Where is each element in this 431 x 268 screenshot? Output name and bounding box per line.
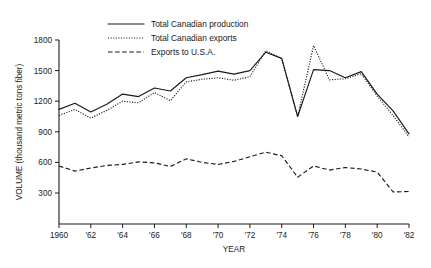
series-group <box>59 46 409 192</box>
y-tick-label: 900 <box>38 128 52 137</box>
x-axis-title: YEAR <box>223 245 245 254</box>
y-tick-label: 600 <box>38 158 52 167</box>
y-axis-title: VOLUME (thousand metric tons fiber) <box>15 63 24 200</box>
y-tick-label: 1200 <box>34 97 53 106</box>
y-axis-ticks <box>55 40 59 193</box>
x-axis-tick-labels: 1960'62'64'66'68'70'72'74'76'78'80'82 <box>50 231 415 240</box>
series-solid <box>59 52 409 134</box>
x-tick-label: '66 <box>149 231 160 240</box>
x-tick-label: '62 <box>85 231 96 240</box>
x-tick-label: '72 <box>245 231 256 240</box>
x-tick-label: '76 <box>308 231 319 240</box>
legend-label: Total Canadian exports <box>151 33 237 43</box>
x-tick-label: '82 <box>404 231 415 240</box>
x-tick-label: '80 <box>372 231 383 240</box>
chart-container: 300600900120015001800 1960'62'64'66'68'7… <box>0 0 431 268</box>
y-tick-label: 1800 <box>34 36 53 45</box>
x-tick-label: '78 <box>340 231 351 240</box>
x-tick-label: '70 <box>213 231 224 240</box>
series-dotted <box>59 46 409 137</box>
series-dashed <box>59 152 409 192</box>
legend-label: Total Canadian production <box>151 19 249 29</box>
y-tick-label: 300 <box>38 189 52 198</box>
chart-legend: Total Canadian productionTotal Canadian … <box>108 19 249 57</box>
x-axis-ticks <box>59 224 409 228</box>
y-axis-tick-labels: 300600900120015001800 <box>34 36 53 198</box>
y-tick-label: 1500 <box>34 67 53 76</box>
x-tick-label: '74 <box>276 231 287 240</box>
x-tick-label: '68 <box>181 231 192 240</box>
x-tick-label: 1960 <box>50 231 69 240</box>
legend-label: Exports to U.S.A. <box>151 47 215 57</box>
line-chart: 300600900120015001800 1960'62'64'66'68'7… <box>0 0 431 268</box>
x-tick-label: '64 <box>117 231 128 240</box>
